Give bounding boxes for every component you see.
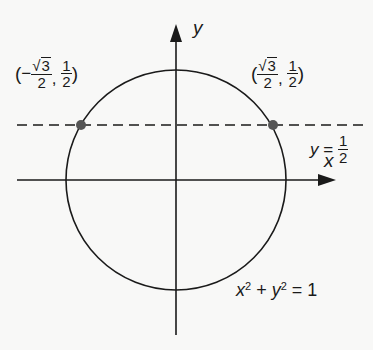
x-coordinate-fraction: √3 2 — [31, 57, 52, 91]
y-coordinate-fraction: 1 2 — [61, 58, 71, 91]
x-coordinate-fraction: √3 2 — [257, 57, 278, 91]
close-paren: ) — [298, 63, 304, 84]
half-fraction: 1 2 — [338, 133, 348, 166]
circle-equation-label: x2 + y2 = 1 — [236, 281, 317, 299]
y-coordinate-fraction: 1 2 — [287, 58, 297, 91]
close-paren: ) — [72, 63, 78, 84]
y-axis-arrow-icon — [170, 24, 182, 42]
line-equation-label: y = 1 2 — [310, 133, 348, 166]
y-axis-label: y — [193, 18, 203, 37]
left-intersection-point — [76, 120, 86, 130]
left-point-label: (− √3 2 , 1 2 ) — [15, 57, 78, 91]
sqrt-icon: √ — [258, 58, 266, 74]
right-point-label: ( √3 2 , 1 2 ) — [251, 57, 304, 91]
right-intersection-point — [268, 120, 278, 130]
sqrt-icon: √ — [32, 58, 40, 74]
minus-sign: − — [21, 64, 31, 83]
x-axis-arrow-icon — [318, 174, 336, 186]
